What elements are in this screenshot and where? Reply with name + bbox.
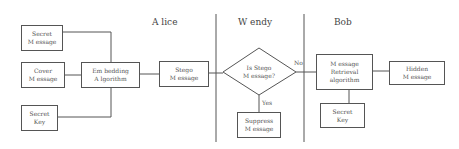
- lane-header-alice: A lice: [152, 17, 177, 27]
- stego-message-line2: M essage: [170, 74, 199, 82]
- lane-header-bob: Bob: [334, 17, 352, 27]
- message-retrieval-box: M essage Retrieval algorithm: [316, 54, 373, 90]
- cover-message-box: Cover M essage: [21, 62, 65, 88]
- secret-key-box: Secret Key: [21, 105, 58, 131]
- embedding-algorithm-line1: Em bedding: [92, 67, 129, 75]
- bob-secret-key-line1: Secret: [333, 108, 353, 116]
- decision-label: Is Stego M essage?: [234, 64, 284, 80]
- lane-header-wendy: W endy: [238, 17, 272, 27]
- secret-message-box: Secret M essage: [21, 25, 63, 51]
- stego-message-box: Stego M essage: [159, 61, 209, 87]
- stego-message-line1: Stego: [175, 66, 193, 74]
- decision-line1: Is Stego: [234, 64, 284, 72]
- no-label: No: [294, 59, 303, 66]
- retrieval-line3: algorithm: [330, 76, 360, 84]
- cover-message-line1: Cover: [34, 67, 52, 75]
- secret-message-line1: Secret: [32, 30, 52, 38]
- embedding-algorithm-box: Em bedding A lgorithm: [81, 62, 140, 88]
- bob-secret-key-line2: Key: [337, 116, 348, 124]
- hidden-message-line1: Hidden: [406, 65, 428, 73]
- secret-key-line2: Key: [34, 118, 45, 126]
- decision-line2: M essage?: [234, 72, 284, 80]
- retrieval-line1: M essage: [330, 60, 359, 68]
- suppress-message-box: Suppress M essage: [237, 112, 281, 138]
- suppress-message-line2: M essage: [245, 125, 274, 133]
- hidden-message-box: Hidden M essage: [389, 61, 445, 85]
- cover-message-line2: M essage: [29, 75, 58, 83]
- connector-secret-key: [57, 87, 111, 117]
- connector-secret-message: [62, 32, 111, 62]
- secret-message-line2: M essage: [28, 38, 57, 46]
- secret-key-line1: Secret: [30, 110, 50, 118]
- bob-secret-key-box: Secret Key: [320, 103, 365, 128]
- suppress-message-line1: Suppress: [245, 117, 273, 125]
- retrieval-line2: Retrieval: [331, 68, 359, 76]
- yes-label: Yes: [262, 99, 272, 106]
- embedding-algorithm-line2: A lgorithm: [94, 75, 126, 83]
- hidden-message-line2: M essage: [403, 73, 432, 81]
